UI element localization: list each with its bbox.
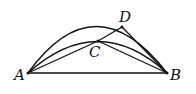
segment-cb	[98, 41, 167, 73]
segment-cd	[98, 27, 122, 41]
point-a	[27, 72, 30, 75]
point-b	[166, 72, 169, 75]
segment-db	[122, 27, 167, 73]
segment-ac	[28, 41, 98, 73]
label-a: A	[14, 68, 25, 83]
label-c: C	[89, 45, 100, 60]
geometry-figure: A B C D	[0, 0, 196, 94]
label-b: B	[170, 68, 181, 83]
label-d: D	[119, 10, 131, 25]
